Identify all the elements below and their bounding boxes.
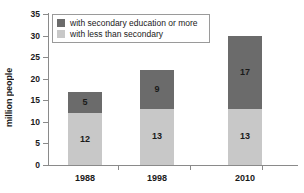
- legend-label-secondary-or-more: with secondary education or more: [70, 18, 198, 28]
- legend-item-less-than-secondary[interactable]: with less than secondary: [57, 29, 205, 39]
- x-axis-tick-label: 2010: [215, 173, 275, 183]
- x-axis-tick-label: 1998: [127, 173, 187, 183]
- y-axis-tick: [43, 122, 49, 123]
- y-axis-tick: [43, 143, 49, 144]
- bar-segment-less-than-secondary[interactable]: 13: [228, 109, 262, 165]
- bar-value-label: 12: [80, 135, 90, 144]
- x-axis-line: [48, 165, 298, 166]
- y-axis-tick-label: 10: [14, 117, 40, 127]
- y-axis-tick: [43, 100, 49, 101]
- bar-value-label: 9: [154, 85, 159, 94]
- y-axis-tick-label: 20: [14, 74, 40, 84]
- bar-segment-secondary-or-more[interactable]: 9: [140, 70, 174, 109]
- legend-item-secondary-or-more[interactable]: with secondary education or more: [57, 18, 205, 28]
- y-axis-tick: [43, 57, 49, 58]
- x-axis-tick: [262, 165, 263, 170]
- legend-swatch-light: [57, 30, 65, 38]
- bar-segment-less-than-secondary[interactable]: 12: [68, 113, 102, 165]
- y-axis-tick-label: 25: [14, 52, 40, 62]
- y-axis-tick-label: 0: [14, 160, 40, 170]
- bar-segment-secondary-or-more[interactable]: 17: [228, 36, 262, 109]
- bar-segment-secondary-or-more[interactable]: 5: [68, 92, 102, 114]
- bar-value-label: 13: [152, 132, 162, 141]
- y-axis-tick: [43, 79, 49, 80]
- y-axis-tick: [43, 36, 49, 37]
- x-axis-tick: [118, 165, 119, 170]
- x-axis-tick-label: 1988: [55, 173, 115, 183]
- bar-value-label: 13: [240, 132, 250, 141]
- y-axis-tick: [43, 165, 49, 166]
- stacked-bar-chart: million people 05101520253035 1988199820…: [0, 0, 304, 193]
- bar-stack-1988[interactable]: 125: [68, 92, 102, 165]
- y-axis-tick: [43, 14, 49, 15]
- bar-value-label: 17: [240, 68, 250, 77]
- bar-stack-2010[interactable]: 1317: [228, 36, 262, 165]
- legend-swatch-dark: [57, 19, 65, 27]
- y-axis-tick-label: 30: [14, 31, 40, 41]
- bar-stack-1998[interactable]: 139: [140, 70, 174, 165]
- y-axis-tick-label: 35: [14, 9, 40, 19]
- x-axis-tick: [190, 165, 191, 170]
- bar-segment-less-than-secondary[interactable]: 13: [140, 109, 174, 165]
- legend-label-less-than-secondary: with less than secondary: [70, 29, 163, 39]
- bar-value-label: 5: [82, 98, 87, 107]
- chart-legend: with secondary education or more with le…: [52, 14, 210, 43]
- y-axis-tick-label: 5: [14, 138, 40, 148]
- y-axis-tick-label: 15: [14, 95, 40, 105]
